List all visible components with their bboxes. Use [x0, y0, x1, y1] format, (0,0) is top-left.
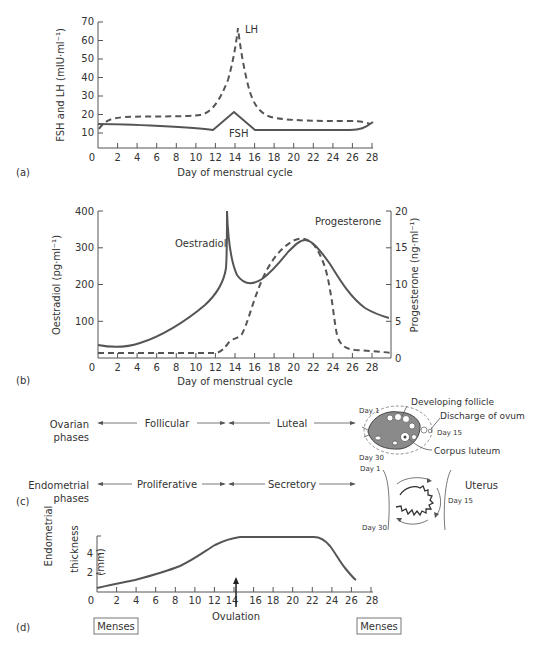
- endometrial-phases-label-2: phases: [54, 493, 89, 504]
- x-tick-label: 12: [209, 362, 222, 373]
- x-tick-label: 28: [366, 362, 379, 373]
- y-right-tick-label: 20: [395, 206, 408, 217]
- x-tick-label: 6: [154, 152, 160, 163]
- x-tick-label: 8: [172, 595, 178, 606]
- x-tick-label: 26: [345, 595, 358, 606]
- endometrial-thickness-curve: [97, 537, 356, 588]
- chart-a-y-label: FSH and LH (mIU·ml⁻¹): [55, 28, 66, 142]
- x-tick-label: 24: [327, 362, 340, 373]
- x-tick-label: 8: [173, 152, 179, 163]
- x-tick-label: 26: [346, 152, 359, 163]
- chart-d: 4 2 0 2 4 6 8 10 12 14 16: [16, 506, 401, 634]
- x-tick-label: 10: [190, 362, 203, 373]
- x-tick-label: 4: [133, 595, 139, 606]
- y-tick-label: 100: [75, 316, 94, 327]
- discharge-of-ovum-label: Discharge of ovum: [440, 411, 525, 421]
- y-tick-label: 30: [81, 90, 94, 101]
- x-tick-label: 18: [268, 152, 281, 163]
- x-tick-label: 16: [249, 595, 262, 606]
- x-tick-label: 14: [229, 362, 242, 373]
- y-right-tick-label: 0: [395, 353, 401, 364]
- chart-a: 10 20 30 40 50 60 70 0 2: [16, 16, 378, 178]
- y-tick-label: 200: [75, 279, 94, 290]
- x-tick-label: 18: [268, 362, 281, 373]
- cycle-arrow: [397, 478, 430, 484]
- luteal-phase-label: Luteal: [277, 418, 308, 429]
- x-tick-label: 22: [306, 595, 319, 606]
- progesterone-curve: [98, 239, 391, 353]
- arrow-right-icon: [220, 482, 226, 486]
- x-tick-label: 14: [229, 152, 242, 163]
- x-tick-label: 20: [286, 595, 299, 606]
- ovary-day15-label: Day 15: [437, 429, 462, 437]
- chart-b-y-label: Oestradiol (pg·ml⁻¹): [51, 235, 62, 335]
- oestradiol-curve: [98, 211, 389, 347]
- lh-curve: [99, 28, 370, 129]
- fsh-label: FSH: [229, 128, 248, 139]
- arrow-up-icon: [233, 577, 239, 584]
- chart-a-y-tick-labels: 10 20 30 40 50 60 70: [81, 16, 94, 138]
- y-tick-label: 50: [81, 53, 94, 64]
- ovary-day30-label: Day 30: [359, 454, 384, 462]
- y-tick-label: 400: [75, 206, 94, 217]
- x-tick-label: 0: [88, 595, 94, 606]
- arrow-left-icon: [228, 482, 234, 486]
- ovulation-label: Ovulation: [212, 611, 260, 622]
- secretory-phase-label: Secretory: [268, 479, 316, 490]
- menses-label-left: Menses: [97, 621, 135, 632]
- x-tick-label: 2: [114, 362, 120, 373]
- arrow-left-icon: [97, 421, 103, 425]
- chart-d-y-label-3: (mm): [95, 548, 106, 575]
- chart-d-x-ticks: [117, 587, 371, 592]
- uterus-label: Uterus: [465, 480, 498, 491]
- chart-a-x-label: Day of menstrual cycle: [177, 167, 292, 178]
- chart-d-y-label-1: Endometrial: [43, 506, 54, 567]
- x-tick-label: 24: [326, 595, 339, 606]
- uterus-diagram: Uterus Day 15 Day 1 Day 30: [360, 465, 498, 532]
- uterus-day30-label: Day 30: [362, 524, 387, 532]
- y-tick-label: 300: [75, 242, 94, 253]
- chart-b-x-ticks: [118, 353, 372, 358]
- x-tick-label: 22: [307, 152, 320, 163]
- uterus-day15-label: Day 15: [448, 497, 473, 505]
- chart-a-y-ticks: [98, 22, 103, 133]
- panel-a-label: (a): [16, 167, 30, 178]
- chart-b-x-label: Day of menstrual cycle: [177, 376, 292, 387]
- chart-b-x-tick-labels: 0 2 4 6 8 10 12 14 16 18 20 22 24 26 28: [89, 362, 379, 373]
- panel-c-phases: Ovarian phases Follicular Luteal Endomet…: [16, 418, 356, 507]
- y-tick-label: 60: [81, 35, 94, 46]
- x-tick-label: 4: [134, 152, 140, 163]
- panel-c-label: (c): [16, 496, 29, 507]
- uterus-day1-label: Day 1: [360, 465, 381, 473]
- y-tick-label: 70: [81, 16, 94, 27]
- y-tick-label: 20: [81, 109, 94, 120]
- x-tick-label: 16: [248, 152, 261, 163]
- chart-d-x-tick-labels: 0 2 4 6 8 10 12 14 16 18 20 22 24 26 28: [88, 595, 379, 606]
- ovary-diagram: Developing follicle Discharge of ovum Co…: [359, 397, 525, 462]
- x-tick-label: 28: [366, 595, 379, 606]
- x-tick-label: 26: [346, 362, 359, 373]
- developing-follicle-label: Developing follicle: [411, 397, 494, 407]
- y-right-tick-label: 15: [395, 242, 408, 253]
- ovum-icon: [421, 427, 427, 433]
- chart-d-y-label-2: thickness: [69, 525, 80, 572]
- chart-a-x-ticks: [118, 143, 372, 148]
- x-tick-label: 2: [114, 152, 120, 163]
- ovarian-phases-label-2: phases: [54, 432, 89, 443]
- x-tick-label: 20: [287, 152, 300, 163]
- arrow-right-icon: [220, 421, 226, 425]
- ovary-day1-label: Day 1: [359, 407, 380, 415]
- x-tick-label: 16: [248, 362, 261, 373]
- x-tick-label: 8: [173, 362, 179, 373]
- y-right-tick-label: 5: [395, 316, 401, 327]
- arrow-right-icon: [350, 482, 356, 486]
- y-tick-label: 4: [87, 548, 93, 559]
- x-tick-label: 6: [154, 362, 160, 373]
- chart-b-y-label-right: Progesterone (ng·ml⁻¹): [409, 218, 420, 333]
- chart-b-y-ticks: [98, 211, 103, 321]
- endometrium-icon: [396, 486, 433, 515]
- x-tick-label: 24: [327, 152, 340, 163]
- corpus-luteum-label: Corpus luteum: [434, 446, 500, 456]
- arrow-right-icon: [350, 421, 356, 425]
- x-tick-label: 28: [366, 152, 379, 163]
